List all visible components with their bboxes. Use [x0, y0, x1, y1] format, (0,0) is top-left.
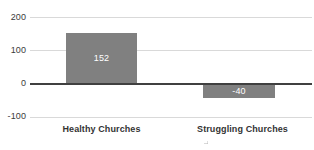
bar-value-struggling-churches: -40 — [203, 87, 275, 96]
category-label-struggling-churches: Struggling Churches — [173, 124, 312, 134]
scan-artifact — [207, 141, 208, 144]
gridline-zero — [30, 83, 312, 85]
gridline-200 — [30, 17, 312, 18]
plot-area: 152 -40 — [30, 17, 312, 117]
category-label-healthy-churches: Healthy Churches — [36, 124, 167, 134]
y-tick-label-100: 100 — [0, 46, 26, 55]
bar-chart: 200 100 0 -100 152 -40 Healthy Churches … — [0, 0, 314, 150]
y-tick-label-0: 0 — [0, 79, 26, 88]
gridline-neg100 — [30, 117, 312, 118]
y-tick-label-neg100: -100 — [0, 112, 26, 121]
bar-value-healthy-churches: 152 — [66, 54, 137, 63]
y-tick-label-200: 200 — [0, 13, 26, 22]
